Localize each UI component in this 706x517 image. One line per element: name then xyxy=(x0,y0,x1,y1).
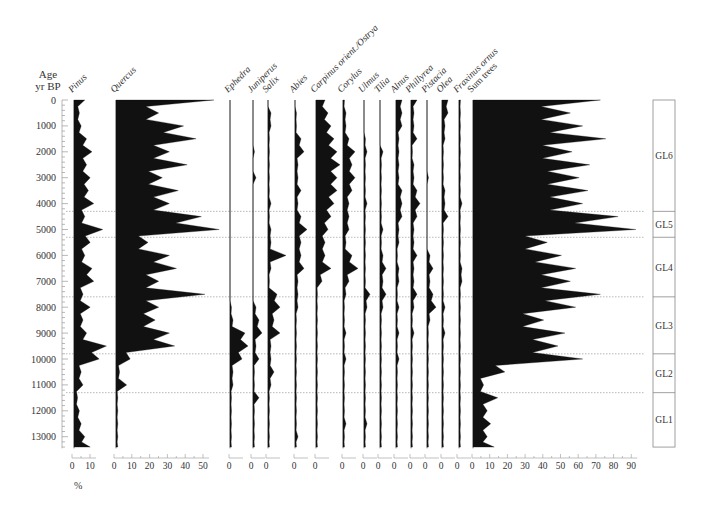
x-axis: 0102030405060708090 xyxy=(470,454,638,471)
taxon-headers: PinusQuercusEphedraJuniperusSalixAbiesCa… xyxy=(66,23,500,96)
zone-gl6: GL6 xyxy=(655,151,673,161)
pollen-diagram: Age yr BP 010002000300040005000600070008… xyxy=(0,0,706,517)
x-axis: 0 xyxy=(361,454,377,471)
x-tick-label: 20 xyxy=(145,461,155,471)
x-tick-label: 0 xyxy=(408,461,413,471)
curve-fill xyxy=(268,100,286,447)
taxon-curve-juniperus xyxy=(253,100,262,448)
x-tick-label: 80 xyxy=(609,461,619,471)
y-tick-label: 13000 xyxy=(31,431,56,442)
x-tick-label: 0 xyxy=(249,461,254,471)
y-tick-label: 10000 xyxy=(31,354,56,365)
x-tick-label: 30 xyxy=(163,461,173,471)
y-axis-label-yrbp: yr BP xyxy=(35,80,60,92)
curve-fill xyxy=(343,100,358,447)
zone-label: GL1 xyxy=(655,415,673,425)
taxon-curve-sum-trees xyxy=(473,100,636,448)
zone-label: GL6 xyxy=(655,151,673,161)
zone-label: GL3 xyxy=(655,321,673,331)
x-axis: 0 xyxy=(227,454,243,471)
taxon-header: Abies xyxy=(287,72,310,95)
zone-gl3: GL3 xyxy=(653,297,675,331)
curve-fill xyxy=(411,100,420,447)
curve-fill xyxy=(396,100,402,447)
zone-label: GL4 xyxy=(655,263,673,273)
pollen-diagram-svg: Age yr BP 010002000300040005000600070008… xyxy=(0,0,706,517)
taxon-curve-ulmus xyxy=(364,100,370,448)
taxon-curve-ephedra xyxy=(230,100,248,448)
curve-fill xyxy=(116,100,219,447)
x-tick-label: 0 xyxy=(392,461,397,471)
x-tick-label: 10 xyxy=(485,461,495,471)
x-tick-label: 0 xyxy=(455,461,460,471)
x-tick-label: 90 xyxy=(627,461,637,471)
x-tick-label: 0 xyxy=(70,461,75,471)
taxon-curve-abies xyxy=(295,100,307,448)
y-tick-label: 2000 xyxy=(36,146,56,157)
y-tick-label: 5000 xyxy=(36,224,56,235)
x-tick-label: 10 xyxy=(85,461,95,471)
y-tick-label: 0 xyxy=(51,95,56,106)
x-axis: 0 xyxy=(392,454,408,471)
curve-fill xyxy=(473,100,636,447)
taxon-curve-quercus xyxy=(116,100,219,448)
x-axis: 0 xyxy=(408,454,424,471)
x-tick-label: 0 xyxy=(112,461,117,471)
taxon-curve-carpinus-orient-ostrya xyxy=(316,100,340,448)
x-axis: 0 xyxy=(376,454,392,471)
x-tick-label: 40 xyxy=(180,461,190,471)
x-tick-label: 60 xyxy=(573,461,583,471)
x-axis: 0 xyxy=(313,454,329,471)
taxon-curve-pinus xyxy=(74,100,106,448)
zone-gl1: GL1 xyxy=(653,393,675,426)
x-axis: 010 xyxy=(70,454,96,471)
y-axis: 0100020003000400050006000700080009000100… xyxy=(31,95,68,449)
x-tick-label: 0 xyxy=(292,461,297,471)
x-tick-label: 0 xyxy=(313,461,318,471)
x-axis: 0 xyxy=(249,454,265,471)
taxon-header: Pinus xyxy=(66,72,89,95)
x-axis: 0 xyxy=(340,454,356,471)
x-tick-label: 0 xyxy=(470,461,475,471)
y-axis-label-age: Age xyxy=(39,68,57,80)
curve-fill xyxy=(364,100,370,447)
zone-label: GL5 xyxy=(655,220,673,230)
zone-gl5: GL5 xyxy=(653,211,675,229)
x-tick-label: 0 xyxy=(340,461,345,471)
x-axis: 0 xyxy=(439,454,455,471)
curve-fill xyxy=(253,100,262,447)
y-tick-label: 12000 xyxy=(31,405,56,416)
y-axis-title: Age yr BP xyxy=(35,68,60,92)
taxon-curve-tilia xyxy=(380,100,386,448)
taxon-curve-phillyrea xyxy=(411,100,420,448)
curve-fill xyxy=(316,100,340,447)
curve-fill xyxy=(442,100,448,447)
x-tick-label: 20 xyxy=(503,461,513,471)
y-tick-label: 6000 xyxy=(36,250,56,261)
y-tick-label: 4000 xyxy=(36,198,56,209)
x-tick-label: 0 xyxy=(439,461,444,471)
x-axis: 0 xyxy=(423,454,439,471)
curve-fill xyxy=(230,100,248,447)
x-axis: 0 xyxy=(292,454,308,471)
x-tick-label: 50 xyxy=(198,461,208,471)
zone-gl4: GL4 xyxy=(653,237,675,272)
x-tick-label: 30 xyxy=(520,461,530,471)
x-tick-label: 50 xyxy=(556,461,566,471)
curve-fill xyxy=(427,100,436,447)
zone-label: GL2 xyxy=(655,369,673,379)
x-tick-label: 70 xyxy=(591,461,601,471)
x-axes: 0100102030405000000000000000102030405060… xyxy=(70,454,638,471)
taxon-curve-pistacia xyxy=(427,100,436,448)
zone-gl2: GL2 xyxy=(653,354,675,379)
curve-fill xyxy=(74,100,106,447)
x-tick-label: 0 xyxy=(227,461,232,471)
y-tick-label: 8000 xyxy=(36,302,56,313)
y-tick-label: 3000 xyxy=(36,172,56,183)
taxon-curve-olea xyxy=(442,100,448,448)
x-tick-label: 0 xyxy=(376,461,381,471)
x-axis: 0 xyxy=(455,454,471,471)
taxon-curve-salix xyxy=(268,100,286,448)
taxon-curve-alnus xyxy=(396,100,402,448)
y-tick-label: 1000 xyxy=(36,120,56,131)
